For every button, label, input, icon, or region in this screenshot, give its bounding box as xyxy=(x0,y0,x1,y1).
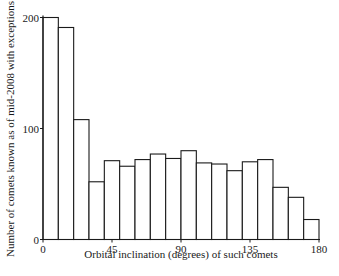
histogram-bar xyxy=(58,27,73,239)
y-axis-label: Number of comets known as of mid-2008 wi… xyxy=(4,17,18,257)
histogram-bar xyxy=(288,197,303,239)
histogram-bar xyxy=(227,171,242,240)
histogram-bar xyxy=(150,154,165,239)
histogram-bar xyxy=(89,182,104,240)
histogram-bar xyxy=(196,163,211,240)
histogram-bar xyxy=(43,18,58,240)
histogram-bar xyxy=(258,160,273,240)
histogram-bar xyxy=(120,166,135,239)
histogram-bar xyxy=(304,220,319,240)
histogram-bar xyxy=(212,164,227,239)
y-tick-label: 100 xyxy=(23,123,40,135)
histogram-bar xyxy=(181,151,196,240)
y-tick-label: 200 xyxy=(23,12,40,24)
histogram-bar xyxy=(166,158,181,239)
histogram-chart: 010020004590135180 xyxy=(0,0,339,276)
histogram-bar xyxy=(242,162,257,240)
histogram-bar xyxy=(74,120,89,240)
x-axis-label: Orbital inclination (degrees) of such co… xyxy=(43,248,319,260)
histogram-bar xyxy=(104,161,119,240)
histogram-bar xyxy=(135,160,150,240)
y-tick-label: 0 xyxy=(34,234,40,246)
histogram-bar xyxy=(273,187,288,239)
